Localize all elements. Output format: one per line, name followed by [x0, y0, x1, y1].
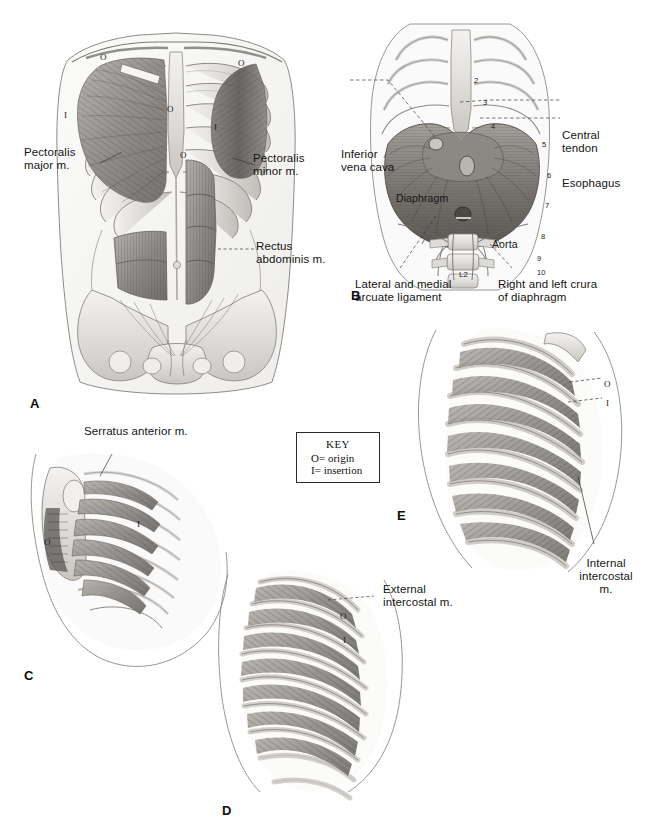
marker-origin-rectus-abdominis: O: [180, 150, 187, 160]
marker-origin-pec-major-sternal: O: [167, 104, 174, 114]
marker-origin-external-intercostal: O: [340, 611, 347, 621]
rib-number-9: 9: [537, 254, 541, 263]
label-esophagus: Esophagus: [562, 177, 620, 190]
marker-origin-serratus: O: [44, 537, 51, 547]
key-meaning-origin: origin: [328, 452, 354, 464]
marker-insertion-external-intercostal: I: [343, 635, 346, 645]
key-row-insertion: I= insertion: [307, 464, 369, 476]
rib-number-8: 8: [541, 232, 545, 241]
key-symbol-origin: O: [311, 452, 319, 464]
marker-insertion-pec-minor: I: [214, 122, 217, 132]
label-external-intercostal: External intercostal m.: [383, 583, 453, 609]
label-pectoralis-minor: Pectoralis minor m.: [253, 152, 305, 178]
panel-letter-b: B: [351, 288, 360, 303]
panel-a-artwork: [57, 33, 295, 394]
panel-letter-d: D: [222, 803, 231, 818]
key-equals-origin: =: [319, 452, 325, 464]
label-aorta: Aorta: [492, 238, 518, 250]
label-diaphragm: Diaphragm: [396, 192, 448, 204]
label-inferior-vena-cava: Inferior vena cava: [341, 148, 394, 174]
marker-insertion-serratus: I: [137, 519, 140, 529]
panel-letter-a: A: [30, 396, 39, 411]
key-title: KEY: [307, 438, 369, 450]
anatomy-figure-plate: Pectoralis major m. Pectoralis minor m. …: [0, 0, 650, 837]
rib-number-7: 7: [545, 201, 549, 210]
key-row-origin: O= origin: [307, 452, 369, 464]
rib-number-2: 2: [474, 76, 478, 85]
marker-origin-pec-minor: O: [238, 58, 245, 68]
label-arcuate-ligament: Lateral and medial arcuate ligament: [355, 278, 451, 304]
marker-insertion-pec-major: I: [64, 110, 67, 120]
panel-letter-c: C: [24, 668, 33, 683]
key-equals-insertion: =: [315, 464, 321, 476]
label-crura-of-diaphragm: Right and left crura of diaphragm: [498, 278, 597, 304]
label-serratus-anterior: Serratus anterior m.: [84, 425, 188, 438]
marker-origin-pec-major-clavicular: O: [100, 52, 107, 62]
illustration-artwork: [0, 0, 650, 837]
rib-number-4: 4: [491, 122, 495, 131]
panel-letter-e: E: [397, 508, 406, 523]
label-pectoralis-major: Pectoralis major m.: [24, 146, 76, 172]
key-meaning-insertion: insertion: [324, 464, 363, 476]
marker-origin-internal-intercostal: O: [604, 379, 611, 389]
rib-number-3: 3: [483, 98, 487, 107]
marker-insertion-internal-intercostal: I: [606, 398, 609, 408]
rib-number-10: 10: [537, 268, 545, 277]
panel-e-artwork: [418, 329, 621, 572]
label-central-tendon: Central tendon: [562, 129, 600, 155]
panel-c-artwork: [31, 453, 227, 666]
panel-d-artwork: [219, 570, 403, 798]
label-vertebra-l2: L2: [459, 270, 468, 279]
rib-number-5: 5: [542, 140, 546, 149]
label-internal-intercostal: Internal intercostal m.: [575, 557, 637, 596]
rib-number-6: 6: [547, 171, 551, 180]
label-rectus-abdominis: Rectus abdominis m.: [256, 240, 326, 266]
key-box: KEY O= origin I= insertion: [296, 432, 380, 483]
